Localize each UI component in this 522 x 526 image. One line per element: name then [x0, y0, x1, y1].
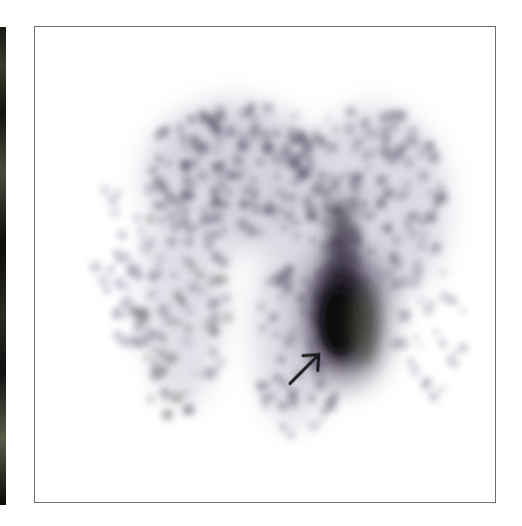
speckle	[144, 355, 150, 361]
speckle	[270, 152, 280, 162]
speckle	[181, 135, 190, 144]
speckle	[191, 266, 197, 272]
speckle	[266, 280, 271, 285]
speckle	[427, 190, 433, 196]
speckle	[377, 176, 387, 186]
speckle	[304, 158, 313, 167]
speckle	[282, 225, 288, 231]
speckle	[290, 207, 295, 212]
speckle	[208, 275, 219, 286]
speckle	[353, 181, 363, 191]
speckle	[233, 155, 243, 165]
speckle	[225, 171, 233, 179]
speckle	[274, 174, 279, 179]
speckle	[418, 148, 427, 157]
speckle	[391, 235, 401, 245]
speckle	[273, 130, 280, 137]
speckle	[309, 395, 315, 401]
speckle	[204, 320, 215, 331]
speckle	[188, 283, 197, 292]
speckle	[381, 124, 390, 133]
speckle	[199, 111, 207, 119]
speckle	[309, 185, 315, 191]
speckle	[239, 109, 249, 119]
speckle	[274, 374, 281, 381]
speckle	[212, 146, 220, 154]
scan-image	[35, 27, 495, 502]
speckle	[367, 248, 375, 256]
speckle	[121, 312, 127, 318]
speckle	[293, 220, 298, 225]
speckle	[412, 267, 422, 277]
speckle	[250, 177, 256, 183]
speckle	[355, 173, 362, 180]
speckle	[293, 232, 299, 238]
speckle	[113, 308, 120, 315]
speckle	[309, 422, 318, 431]
speckle	[198, 286, 207, 295]
speckle	[210, 368, 218, 376]
speckle	[288, 127, 295, 134]
speckle	[292, 328, 298, 334]
speckle	[214, 126, 222, 134]
speckle	[414, 335, 419, 340]
speckle	[256, 381, 264, 389]
speckle	[185, 325, 192, 332]
speckle	[152, 358, 158, 364]
speckle	[157, 270, 163, 276]
speckle	[414, 260, 421, 267]
speckle	[321, 243, 329, 251]
speckle	[204, 231, 214, 241]
speckle	[90, 262, 100, 272]
speckle	[429, 392, 438, 401]
speckle	[419, 232, 426, 239]
speckle	[440, 270, 446, 276]
speckle	[427, 301, 434, 308]
speckle	[361, 119, 369, 127]
speckle	[329, 396, 334, 401]
speckle	[407, 127, 417, 137]
speckle	[187, 115, 195, 123]
speckle	[210, 186, 218, 194]
speckle	[118, 231, 126, 239]
speckle	[259, 325, 266, 332]
speckle	[114, 333, 121, 340]
speckle	[250, 190, 258, 198]
speckle	[178, 224, 184, 230]
speckle	[279, 294, 285, 300]
speckle	[292, 138, 298, 144]
speckle	[426, 212, 436, 222]
speckle	[196, 272, 203, 279]
speckle	[146, 329, 156, 339]
speckle	[273, 332, 279, 338]
speckle	[191, 159, 199, 167]
speckle	[158, 305, 168, 315]
speckle	[208, 299, 219, 310]
speckle	[301, 141, 312, 152]
speckle	[125, 256, 131, 262]
speckle	[252, 117, 259, 124]
speckle	[385, 189, 394, 198]
speckle	[376, 198, 386, 208]
speckle	[315, 379, 325, 389]
speckle	[238, 220, 249, 231]
speckle	[269, 393, 275, 399]
speckle	[183, 144, 190, 151]
speckle	[145, 184, 155, 194]
speckle	[210, 349, 216, 355]
speckle	[187, 207, 192, 212]
speckle	[383, 224, 391, 232]
speckle	[278, 356, 284, 362]
speckle	[169, 353, 177, 361]
speckle	[178, 298, 186, 306]
speckle	[186, 308, 192, 314]
speckle	[284, 342, 289, 347]
speckle	[239, 131, 247, 139]
speckle	[184, 257, 191, 264]
speckle	[266, 382, 271, 387]
scan-panel	[34, 26, 496, 503]
speckle	[270, 314, 278, 322]
speckle	[201, 215, 211, 225]
speckle	[240, 200, 248, 208]
speckle	[269, 209, 274, 214]
